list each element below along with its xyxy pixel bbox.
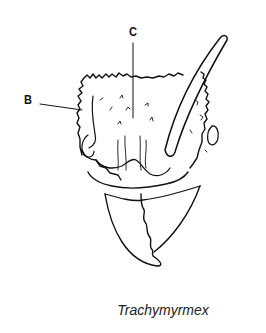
frontal-carina-left <box>89 96 96 148</box>
mandible-left <box>105 194 161 266</box>
head-outline <box>77 72 209 188</box>
label-b: B <box>24 92 32 107</box>
mandible-base <box>105 186 200 201</box>
eye-right <box>208 126 219 145</box>
label-c: C <box>129 24 137 39</box>
figure-caption: Trachymyrmex <box>0 302 266 318</box>
figure: B C Trachymyrmex <box>0 0 266 333</box>
ant-head-illustration <box>0 0 266 333</box>
surface-sculpture <box>100 95 207 170</box>
leader-line-b <box>40 104 82 110</box>
clypeus <box>96 159 170 175</box>
mandible-right <box>154 186 200 252</box>
